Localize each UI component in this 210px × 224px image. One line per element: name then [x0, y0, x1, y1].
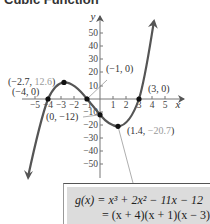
- point-x-intercept-neg1: [84, 96, 89, 101]
- point-x-intercept-3: [136, 96, 141, 101]
- y-axis-label: y: [90, 10, 96, 22]
- label-x-intercept-neg4: (−4, 0): [12, 86, 39, 98]
- point-x-intercept-neg4: [45, 96, 50, 101]
- point-y-intercept: [97, 112, 102, 117]
- formula-rhs: x³ + 2x² − 11x − 12: [108, 193, 203, 207]
- formula-box: g(x) = x³ + 2x² − 11x − 12 = (x + 4)(x +…: [63, 183, 210, 224]
- formula-panel: g(x) = x³ + 2x² − 11x − 12 = (x + 4)(x +…: [67, 187, 210, 224]
- y-tick-label: 30: [89, 54, 99, 64]
- x-tick-label: 4: [150, 100, 155, 110]
- y-tick-label: −40: [83, 146, 98, 156]
- x-tick-label: −3: [56, 100, 66, 110]
- y-tick-label: 20: [89, 67, 99, 77]
- x-tick-label: 5: [163, 100, 168, 110]
- point-local-max: [61, 80, 66, 85]
- label-x-intercept-neg1: (−1, 0): [106, 63, 133, 75]
- y-tick-label: −20: [83, 120, 98, 130]
- point-local-min: [115, 124, 120, 129]
- y-tick-label: −30: [83, 133, 98, 143]
- label-x-intercept-3: (3, 0): [148, 83, 170, 95]
- x-tick-label: −2: [69, 100, 79, 110]
- label-y-intercept: (0, −12): [46, 111, 78, 123]
- x-tick-label: 2: [124, 100, 129, 110]
- y-tick-label: 50: [89, 28, 99, 38]
- x-tick-label: −5: [30, 100, 40, 110]
- formula-line-1: g(x) = x³ + 2x² − 11x − 12: [75, 193, 203, 208]
- label-local-min: (1.4, −20.7): [127, 125, 174, 137]
- formula-lhs: g(x) =: [75, 193, 108, 207]
- formula-line-2: = (x + 4)(x + 1)(x − 3): [102, 208, 210, 223]
- y-tick-label: −50: [83, 159, 98, 169]
- x-tick-label: 1: [111, 100, 116, 110]
- x-axis-label: x: [175, 98, 181, 110]
- y-tick-label: 40: [89, 41, 99, 51]
